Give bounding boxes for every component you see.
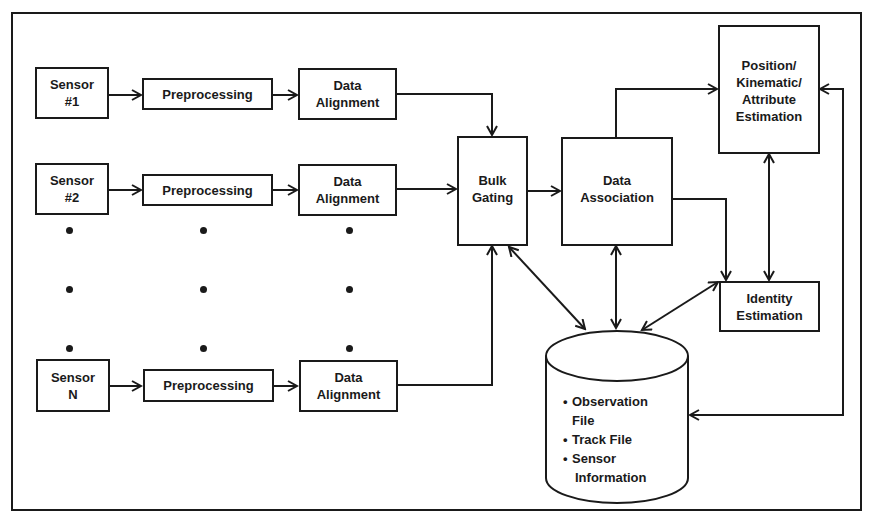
ellipsis-dot <box>200 286 207 293</box>
identity-estimation-label: Identity Estimation <box>736 290 802 324</box>
ellipsis-dot <box>66 286 73 293</box>
data-alignment-n-box: Data Alignment <box>299 360 398 412</box>
db-item-text: Observation <box>572 394 648 409</box>
ellipsis-dot <box>200 345 207 352</box>
db-item-track-file: •Track File <box>563 430 683 449</box>
sensor-2-box: Sensor #2 <box>35 163 109 215</box>
preprocessing-n-box: Preprocessing <box>143 369 274 402</box>
database-contents: •Observation File •Track File •Sensor In… <box>563 392 683 487</box>
preprocessing-n-label: Preprocessing <box>163 377 253 394</box>
bullet-icon: • <box>563 430 572 449</box>
ellipsis-dot <box>66 345 73 352</box>
bulk-gating-label: Bulk Gating <box>472 172 513 206</box>
db-item-text-cont: Information <box>563 468 683 487</box>
sensor-n-box: Sensor N <box>36 359 110 412</box>
data-association-label: Data Association <box>580 172 654 206</box>
db-item-observation-file: •Observation <box>563 392 683 411</box>
db-item-text: Track File <box>572 432 632 447</box>
bullet-icon: • <box>563 449 572 468</box>
position-kinematic-attribute-estimation-box: Position/ Kinematic/ Attribute Estimatio… <box>718 25 820 154</box>
preprocessing-1-label: Preprocessing <box>162 86 252 103</box>
data-alignment-2-box: Data Alignment <box>298 164 397 216</box>
sensor-1-box: Sensor #1 <box>35 67 109 119</box>
db-item-sensor-information: •Sensor <box>563 449 683 468</box>
ellipsis-dot <box>66 227 73 234</box>
identity-estimation-box: Identity Estimation <box>719 281 820 332</box>
ellipsis-dot <box>346 286 353 293</box>
data-alignment-n-label: Data Alignment <box>317 369 381 403</box>
ellipsis-dot <box>346 345 353 352</box>
db-item-text-cont: File <box>563 411 683 430</box>
ellipsis-dot <box>200 227 207 234</box>
position-estimation-label: Position/ Kinematic/ Attribute Estimatio… <box>736 57 802 125</box>
bullet-icon: • <box>563 392 572 411</box>
data-alignment-1-label: Data Alignment <box>316 77 380 111</box>
db-item-text: Sensor <box>572 451 616 466</box>
preprocessing-1-box: Preprocessing <box>142 78 273 110</box>
preprocessing-2-box: Preprocessing <box>142 174 273 206</box>
data-association-box: Data Association <box>561 137 673 246</box>
bulk-gating-box: Bulk Gating <box>457 136 528 246</box>
data-alignment-1-box: Data Alignment <box>298 68 397 120</box>
sensor-2-label: Sensor #2 <box>50 172 94 206</box>
preprocessing-2-label: Preprocessing <box>162 182 252 199</box>
sensor-1-label: Sensor #1 <box>50 76 94 110</box>
data-alignment-2-label: Data Alignment <box>316 173 380 207</box>
ellipsis-dot <box>346 227 353 234</box>
sensor-n-label: Sensor N <box>51 369 95 403</box>
